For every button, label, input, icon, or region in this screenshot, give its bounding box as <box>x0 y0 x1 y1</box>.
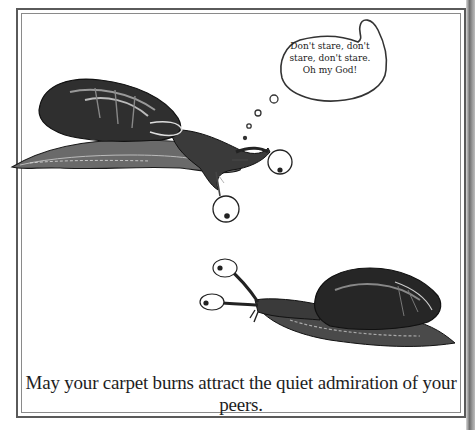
upper-snail <box>12 79 292 222</box>
lower-snail <box>200 259 455 346</box>
illustration <box>0 0 475 430</box>
speech-bubble-text: Don't stare, don't stare, don't stare. O… <box>283 40 377 76</box>
speech-line: Don't stare, don't <box>283 40 377 52</box>
speech-line: stare, don't stare. <box>283 52 377 64</box>
card-caption: May your carpet burns attract the quiet … <box>18 372 464 416</box>
speech-line: Oh my God! <box>283 64 377 76</box>
thought-dots <box>244 95 279 140</box>
